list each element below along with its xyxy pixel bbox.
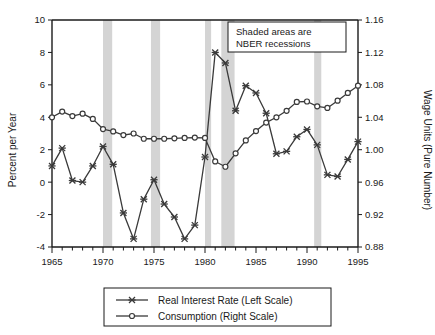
recession-band-3 <box>221 20 234 247</box>
datapoint-1-1967 <box>70 114 75 119</box>
datapoint-0-1990 <box>303 126 310 132</box>
annotation-line-2: NBER recessions <box>236 38 311 49</box>
x-ticklabel-5: 1990 <box>296 256 317 267</box>
datapoint-1-1966 <box>60 109 65 114</box>
datapoint-1-1978 <box>182 135 187 140</box>
datapoint-1-1984 <box>243 138 248 143</box>
datapoint-1-1965 <box>50 115 55 120</box>
datapoint-1-1979 <box>192 135 197 140</box>
y-left-ticklabel-7: 10 <box>34 14 45 25</box>
x-ticklabel-0: 1965 <box>41 256 62 267</box>
datapoint-1-1982 <box>223 164 228 169</box>
recession-band-2 <box>205 20 211 247</box>
datapoint-1-1987 <box>274 115 279 120</box>
datapoint-0-1978 <box>181 236 188 242</box>
legend-label-0: Real Interest Rate (Left Scale) <box>158 295 293 306</box>
y-left-ticklabel-4: 4 <box>40 112 45 123</box>
y-right-ticklabel-6: 1.12 <box>365 47 384 58</box>
y-right-ticklabel-2: 0.96 <box>365 177 384 188</box>
y-axis-left-ticks: -4-20246810 <box>34 14 52 252</box>
datapoint-1-1970 <box>101 127 106 132</box>
x-ticklabel-1: 1970 <box>92 256 113 267</box>
y-right-ticklabel-4: 1.04 <box>365 112 384 123</box>
y-left-ticklabel-3: 2 <box>40 144 45 155</box>
datapoint-0-1985 <box>252 90 259 96</box>
datapoint-0-1976 <box>161 201 168 207</box>
shaded-areas-annotation: Shaded areas are NBER recessions <box>228 22 346 52</box>
datapoint-1-1995 <box>356 83 361 88</box>
datapoint-0-1968 <box>79 179 86 185</box>
datapoint-0-1993 <box>334 173 341 179</box>
x-ticklabel-3: 1980 <box>194 256 215 267</box>
datapoint-1-1981 <box>213 159 218 164</box>
y-axis-left-title: Percent per Year <box>7 112 18 187</box>
x-ticklabel-2: 1975 <box>143 256 164 267</box>
datapoint-1-1993 <box>335 98 340 103</box>
datapoint-0-1992 <box>324 172 331 178</box>
datapoint-1-1969 <box>90 116 95 121</box>
datapoint-1-1991 <box>315 104 320 109</box>
x-axis-ticks: 1965197019751980198519901995 <box>41 247 368 267</box>
chart-canvas: -4-20246810 0.880.920.961.001.041.081.12… <box>0 0 435 335</box>
datapoint-0-1984 <box>242 83 249 89</box>
recession-band-0 <box>103 20 112 247</box>
datapoint-1-1994 <box>345 90 350 95</box>
datapoint-1-1988 <box>284 108 289 113</box>
datapoint-1-1977 <box>172 136 177 141</box>
y-left-ticklabel-1: -2 <box>37 209 45 220</box>
chart-legend: Real Interest Rate (Left Scale) Consumpt… <box>104 288 331 326</box>
y-right-ticklabel-7: 1.16 <box>365 14 384 25</box>
legend-marker-circle-icon <box>130 314 135 319</box>
y-left-ticklabel-5: 6 <box>40 79 45 90</box>
datapoint-0-1969 <box>89 163 96 169</box>
datapoint-1-1975 <box>152 136 157 141</box>
y-axis-right-ticks: 0.880.920.961.001.041.081.121.16 <box>358 14 384 252</box>
y-left-ticklabel-2: 0 <box>40 177 45 188</box>
y-axis-right-title: Wage Units (Pure Number) <box>422 90 433 210</box>
annotation-line-1: Shaded areas are <box>236 26 312 37</box>
y-left-ticklabel-0: -4 <box>37 241 45 252</box>
recession-band-4 <box>314 20 321 247</box>
datapoint-1-1985 <box>254 129 259 134</box>
y-right-ticklabel-0: 0.88 <box>365 241 384 252</box>
legend-label-1: Consumption (Right Scale) <box>158 311 278 322</box>
datapoint-1-1992 <box>325 105 330 110</box>
datapoint-1-1968 <box>80 111 85 116</box>
datapoint-1-1973 <box>131 131 136 136</box>
recession-band-1 <box>151 20 160 247</box>
datapoint-0-1989 <box>293 134 300 140</box>
datapoint-1-1983 <box>233 151 238 156</box>
datapoint-1-1976 <box>162 136 167 141</box>
datapoint-1-1974 <box>141 136 146 141</box>
figure-container: -4-20246810 0.880.920.961.001.041.081.12… <box>0 0 435 335</box>
legend-marker-1 <box>130 314 135 319</box>
datapoint-1-1990 <box>305 99 310 104</box>
x-ticklabel-4: 1985 <box>245 256 266 267</box>
datapoint-1-1986 <box>264 120 269 125</box>
datapoint-1-1972 <box>121 133 126 138</box>
datapoint-0-1977 <box>171 214 178 220</box>
y-left-ticklabel-6: 8 <box>40 47 45 58</box>
datapoint-1-1971 <box>111 129 116 134</box>
x-ticklabel-6: 1995 <box>347 256 368 267</box>
y-right-ticklabel-3: 1.00 <box>365 144 384 155</box>
datapoint-0-1994 <box>344 156 351 162</box>
y-right-ticklabel-1: 0.92 <box>365 209 384 220</box>
datapoint-0-1988 <box>283 148 290 154</box>
datapoint-1-1989 <box>294 99 299 104</box>
y-right-ticklabel-5: 1.08 <box>365 79 384 90</box>
datapoint-1-1980 <box>203 135 208 140</box>
